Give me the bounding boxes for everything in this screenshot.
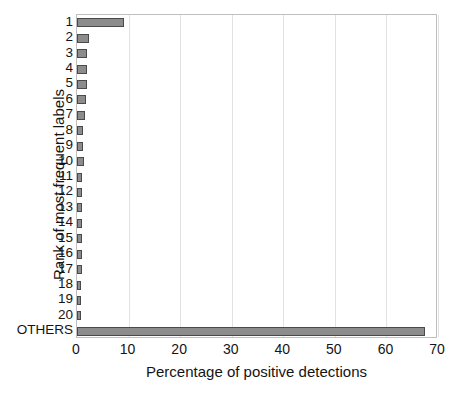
y-tick-label-3: 3 [1, 46, 73, 59]
y-tick-label-4: 4 [1, 61, 73, 74]
y-tick-label-15: 15 [1, 231, 73, 244]
x-tick-label-10: 10 [120, 341, 136, 357]
y-tick-label-16: 16 [1, 246, 73, 259]
y-tick-label-20: 20 [1, 308, 73, 321]
x-tick-label-40: 40 [274, 341, 290, 357]
plot-area [76, 14, 437, 338]
y-tick-label-17: 17 [1, 262, 73, 275]
y-tick-label-13: 13 [1, 200, 73, 213]
x-tick-label-0: 0 [72, 341, 80, 357]
bar-15 [77, 234, 82, 243]
bar-6 [77, 95, 86, 104]
y-tick-label-7: 7 [1, 107, 73, 120]
y-tick-label-8: 8 [1, 123, 73, 136]
bar-7 [77, 111, 85, 120]
bar-18 [77, 281, 81, 290]
bar-3 [77, 49, 87, 58]
bar-16 [77, 250, 82, 259]
gridline-30 [232, 15, 233, 337]
x-tick-label-20: 20 [171, 341, 187, 357]
bar-2 [77, 34, 89, 43]
bar-OTHERS [77, 327, 425, 336]
bar-19 [77, 296, 81, 305]
chart-figure: Rank of most frequent labels 12345678910… [0, 0, 459, 400]
bar-5 [77, 80, 87, 89]
bar-20 [77, 311, 81, 320]
y-tick-label-14: 14 [1, 215, 73, 228]
bar-11 [77, 173, 82, 182]
bar-17 [77, 265, 82, 274]
bar-13 [77, 203, 82, 212]
x-tick-label-70: 70 [429, 341, 445, 357]
gridline-70 [438, 15, 439, 337]
y-tick-label-19: 19 [1, 292, 73, 305]
y-tick-label-6: 6 [1, 92, 73, 105]
gridline-20 [180, 15, 181, 337]
x-tick-label-50: 50 [326, 341, 342, 357]
y-tick-label-OTHERS: OTHERS [1, 323, 73, 336]
y-axis-tick-labels: 1234567891011121314151617181920OTHERS [0, 14, 73, 338]
gridline-40 [283, 15, 284, 337]
y-tick-label-11: 11 [1, 169, 73, 182]
bar-1 [77, 18, 124, 27]
gridline-50 [335, 15, 336, 337]
bar-9 [77, 142, 83, 151]
bar-8 [77, 126, 83, 135]
y-tick-label-12: 12 [1, 184, 73, 197]
gridline-10 [129, 15, 130, 337]
y-tick-label-9: 9 [1, 138, 73, 151]
x-axis-title: Percentage of positive detections [76, 363, 437, 380]
y-tick-label-5: 5 [1, 76, 73, 89]
bar-10 [77, 157, 84, 166]
bar-4 [77, 65, 87, 74]
y-tick-label-18: 18 [1, 277, 73, 290]
gridline-60 [386, 15, 387, 337]
bar-14 [77, 219, 82, 228]
y-tick-label-2: 2 [1, 30, 73, 43]
y-tick-label-1: 1 [1, 15, 73, 28]
y-tick-label-10: 10 [1, 154, 73, 167]
x-tick-label-30: 30 [223, 341, 239, 357]
x-axis-tick-labels: 010203040506070 [0, 341, 459, 361]
bar-12 [77, 188, 82, 197]
x-tick-label-60: 60 [378, 341, 394, 357]
